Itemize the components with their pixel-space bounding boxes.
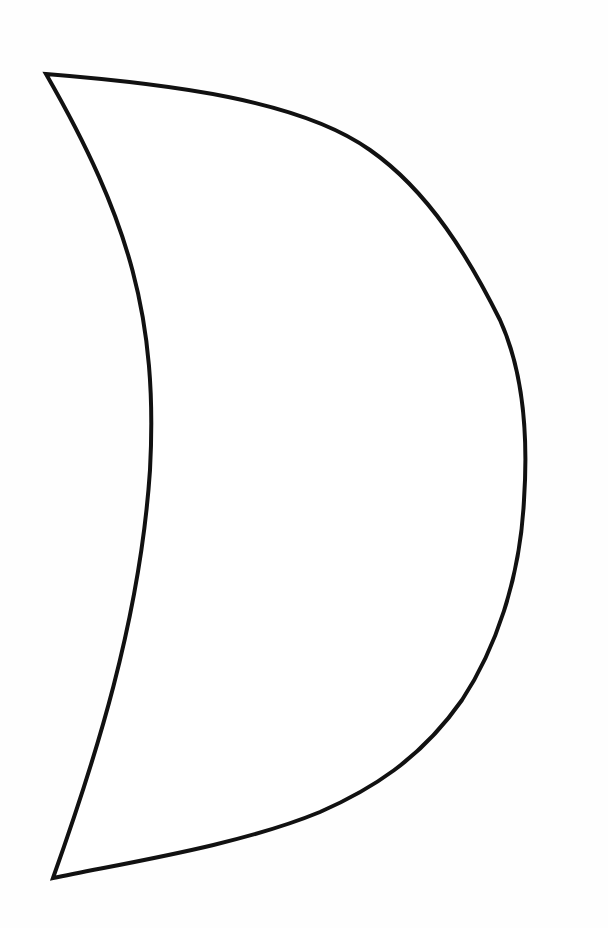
canvas — [0, 0, 608, 928]
crescent-shape — [0, 0, 608, 928]
crescent-outline — [46, 74, 525, 878]
